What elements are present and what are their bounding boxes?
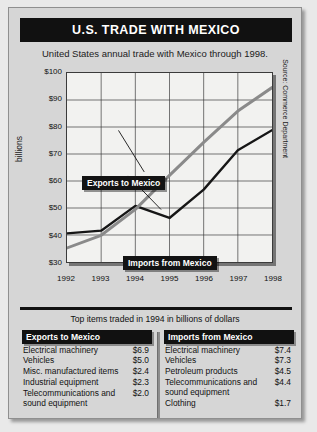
import-item-value: $7.4 <box>275 346 291 355</box>
export-item-name: Industrial equipment <box>23 378 133 387</box>
section-divider <box>20 307 292 310</box>
export-item-value: $5.0 <box>133 356 149 365</box>
callout-exports: Exports to Mexico <box>82 176 165 190</box>
y-tick-label: $80 <box>28 122 62 131</box>
table-row: Electrical machinery$7.4 <box>164 344 294 355</box>
import-item-name: Vehicles <box>165 356 275 365</box>
import-item-name: Electrical machinery <box>165 346 275 355</box>
table-row: Telecommunications and sound equipment$2… <box>22 388 152 408</box>
callout-imports: Imports from Mexico <box>123 256 217 270</box>
export-item-name: Electrical machinery <box>23 346 133 355</box>
tables-caption: Top items traded in 1994 in billions of … <box>9 314 301 324</box>
table-row: Industrial equipment$2.3 <box>22 377 152 388</box>
table-exports-header: Exports to Mexico <box>22 330 152 344</box>
export-item-value: $2.3 <box>133 378 149 387</box>
plot-area <box>66 72 273 263</box>
subtitle: United States annual trade with Mexico t… <box>9 48 301 59</box>
export-item-name: Telecommunications and sound equipment <box>23 389 133 408</box>
y-tick-label: $30 <box>28 258 62 267</box>
export-item-value: $6.9 <box>133 346 149 355</box>
table-imports-header: Imports from Mexico <box>164 330 294 344</box>
y-tick-label: $50 <box>28 203 62 212</box>
import-item-value: $7.3 <box>275 356 291 365</box>
export-item-name: Misc. manufactured items <box>23 367 133 376</box>
import-item-value: $1.7 <box>275 399 291 408</box>
infographic-panel: U.S. TRADE WITH MEXICO United States ann… <box>8 7 302 419</box>
table-exports-body: Electrical machinery$6.9Vehicles$5.0Misc… <box>22 344 152 408</box>
export-item-name: Vehicles <box>23 356 133 365</box>
table-row: Vehicles$7.3 <box>164 355 294 366</box>
y-tick-label: $40 <box>28 231 62 240</box>
import-item-name: Telecommunications and sound equipment <box>165 378 275 397</box>
y-tick-label: $100 <box>28 67 62 76</box>
table-imports: Imports from Mexico Electrical machinery… <box>164 330 294 408</box>
table-row: Misc. manufactured items$2.4 <box>22 366 152 377</box>
y-tick-label: $70 <box>28 149 62 158</box>
source-label: Source: Commerce Department <box>282 59 289 158</box>
table-row: Vehicles$5.0 <box>22 355 152 366</box>
y-tick-label: $60 <box>28 176 62 185</box>
export-item-value: $2.0 <box>133 389 149 398</box>
table-row: Electrical machinery$6.9 <box>22 344 152 355</box>
table-row: Clothing$1.7 <box>164 397 294 408</box>
import-item-name: Petroleum products <box>165 367 275 376</box>
table-exports: Exports to Mexico Electrical machinery$6… <box>22 330 152 408</box>
export-item-value: $2.4 <box>133 367 149 376</box>
plot-svg <box>67 73 272 262</box>
chart: billions $30$40$50$60$70$80$90$100 19921… <box>20 66 292 301</box>
x-tick-label: 1998 <box>253 274 293 283</box>
title-bar: U.S. TRADE WITH MEXICO <box>20 18 292 42</box>
import-item-value: $4.5 <box>275 367 291 376</box>
table-imports-body: Electrical machinery$7.4Vehicles$7.3Petr… <box>164 344 294 408</box>
table-row: Telecommunications and sound equipment$4… <box>164 377 294 397</box>
y-axis-label: billions <box>14 136 24 162</box>
import-item-name: Clothing <box>165 399 275 408</box>
page-title: U.S. TRADE WITH MEXICO <box>72 23 240 37</box>
tables-vertical-divider <box>157 332 160 419</box>
table-row: Petroleum products$4.5 <box>164 366 294 377</box>
import-item-value: $4.4 <box>275 378 291 387</box>
y-tick-label: $90 <box>28 94 62 103</box>
